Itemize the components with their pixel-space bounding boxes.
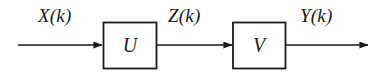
block-diagram-figure: X(k) Z(k) Y(k) U V [0, 0, 387, 80]
signal-label-input: X(k) [38, 6, 72, 25]
signal-label-output: Y(k) [300, 6, 332, 25]
signal-label-intermediate: Z(k) [168, 6, 200, 25]
block-u-label: U [103, 35, 157, 55]
block-v-label: V [232, 35, 286, 55]
